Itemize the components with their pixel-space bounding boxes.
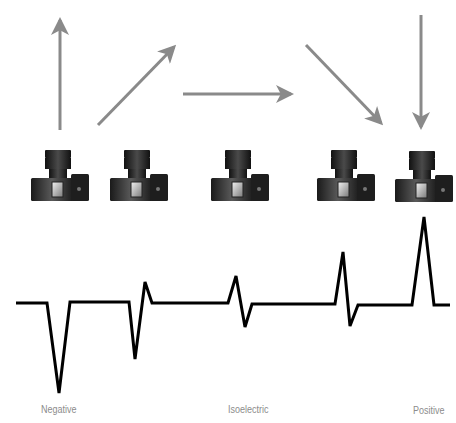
- arrow-diagonal-toward-icon: [306, 45, 381, 123]
- camera-icon: [31, 150, 89, 201]
- camera-icon: [317, 150, 375, 201]
- camera-icon: [110, 150, 168, 201]
- label-positive: Positive: [413, 405, 445, 416]
- arrow-diagonal-away-icon: [98, 47, 174, 125]
- diagram-canvas: [0, 0, 456, 423]
- label-isoelectric: Isoelectric: [228, 404, 269, 415]
- label-negative: Negative: [41, 404, 77, 415]
- arrows: [60, 15, 421, 130]
- cameras: [31, 150, 453, 202]
- camera-icon: [395, 151, 453, 202]
- ecg-trace: [16, 217, 450, 393]
- camera-icon: [211, 150, 269, 201]
